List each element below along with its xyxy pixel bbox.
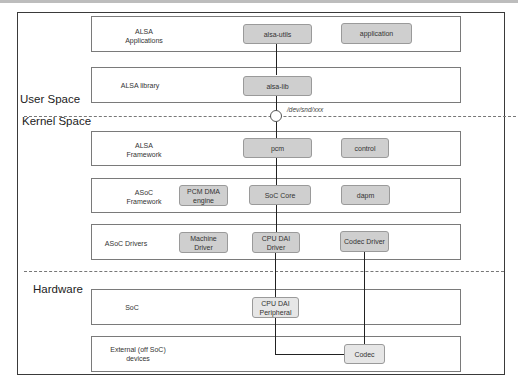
connector-cpu-dai-codec-horizontal (275, 354, 345, 355)
kernel-hardware-divider (24, 271, 504, 272)
section-label-hardware: Hardware (33, 283, 83, 295)
row-label: ASoC Drivers (96, 239, 156, 248)
component-alsa-utils[interactable]: alsa-utils (243, 24, 312, 44)
section-label-user-space: User Space (20, 93, 80, 105)
component-machine-driver[interactable]: Machine Driver (179, 232, 228, 253)
component-codec[interactable]: Codec (344, 344, 385, 364)
connector-codec-driver-to-codec (364, 251, 365, 345)
connector-soc-core-to-cpu-dai (276, 203, 277, 233)
connector-utils-to-lib (276, 43, 277, 75)
row-label: ALSA library (110, 81, 170, 90)
component-pcm[interactable]: pcm (243, 138, 312, 158)
component-dapm[interactable]: dapm (341, 185, 390, 205)
row-label: ASoC Framework (114, 188, 174, 206)
component-pcm-dma-engine[interactable]: PCM DMA engine (179, 185, 228, 206)
section-label-kernel-space: Kernel Space (22, 115, 91, 127)
row-label: SoC (102, 303, 162, 312)
component-soc-core[interactable]: SoC Core (249, 185, 311, 205)
row-label: ALSA Applications (114, 27, 174, 45)
component-alsa-lib[interactable]: alsa-lib (243, 76, 312, 96)
component-cpu-dai-driver[interactable]: CPU DAI Driver (252, 232, 300, 253)
component-cpu-dai-peripheral[interactable]: CPU DAI Peripheral (252, 297, 299, 318)
row-label: ALSA Framework (114, 141, 174, 159)
row-label: External (off SoC) devices (98, 345, 178, 363)
component-control[interactable]: control (341, 138, 389, 158)
connector-pcm-to-soc-core (276, 156, 277, 186)
top-edge-shadow (0, 0, 518, 3)
device-node-label: /dev/snd/xxx (287, 106, 323, 113)
component-application[interactable]: application (341, 23, 412, 44)
device-node-circle (270, 110, 282, 122)
component-codec-driver[interactable]: Codec Driver (340, 231, 389, 252)
